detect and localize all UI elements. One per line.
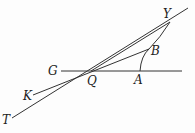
label-Y: Y	[163, 7, 172, 21]
label-G: G	[48, 64, 58, 78]
label-Q: Q	[87, 74, 97, 88]
diagram-svg: Y B G Q A K T	[0, 0, 195, 133]
line-TY	[12, 8, 188, 118]
label-B: B	[150, 44, 160, 58]
label-A: A	[133, 73, 143, 87]
label-K: K	[22, 89, 33, 103]
label-T: T	[2, 113, 11, 127]
geometry-diagram: Y B G Q A K T	[0, 0, 195, 133]
